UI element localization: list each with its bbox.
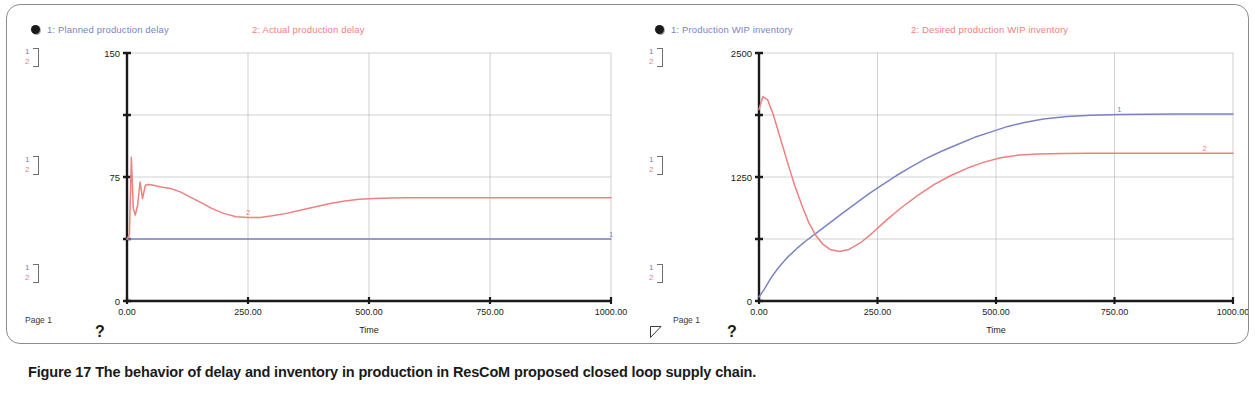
- series-inline-marker: 1: [1117, 105, 1121, 114]
- chart-canvas: 12: [127, 53, 611, 301]
- series-inline-marker: 2: [246, 208, 250, 217]
- page-label-left: Page 1: [25, 315, 52, 325]
- legend-entry-series1: 1: Planned production delay: [47, 24, 169, 35]
- scale-bracket-icon: [657, 264, 663, 283]
- x-axis-tick-label: 0.00: [118, 307, 136, 317]
- scale-pair-mid[interactable]: 1 2: [25, 155, 51, 181]
- scale-bracket-icon: [657, 156, 663, 175]
- figure-caption-lead: Figure 17: [28, 364, 91, 380]
- series-inline-marker: 2: [1202, 144, 1206, 153]
- x-axis-title: Time: [359, 325, 379, 335]
- page-label-right: Page 1: [673, 315, 700, 325]
- legend-bullet-icon: [655, 25, 664, 34]
- x-axis-tick-label: 750.00: [476, 307, 504, 317]
- scale-bracket-icon: [657, 48, 663, 67]
- scale-gutter-left: 1 2 1 2 1 2: [25, 47, 51, 297]
- scale-bracket-icon: [33, 48, 39, 67]
- vensim-window-frame: 1: Planned production delay 2: Actual pr…: [6, 4, 1249, 344]
- figure-container: 1: Planned production delay 2: Actual pr…: [0, 0, 1255, 411]
- y-axis-tick-label: 1250: [731, 172, 752, 183]
- x-axis-tick-label: 750.00: [1101, 307, 1129, 317]
- y-axis-tick-label: 0: [115, 296, 120, 307]
- page-flip-icon[interactable]: [649, 325, 663, 339]
- chart-production-delay: 12 0751500.00250.00500.00750.001000.00Ti…: [127, 53, 611, 301]
- legend-entry-series2: 2: Actual production delay: [252, 24, 365, 35]
- y-axis-tick-label: 75: [109, 172, 120, 183]
- x-axis-tick-label: 1000.00: [1217, 307, 1249, 317]
- scale-pair-top[interactable]: 1 2: [649, 47, 675, 73]
- x-axis-tick-label: 250.00: [234, 307, 262, 317]
- x-axis-tick-label: 250.00: [864, 307, 892, 317]
- y-axis-tick-label: 150: [104, 48, 120, 59]
- x-axis-tick-label: 1000.00: [595, 307, 628, 317]
- chart-inventory: 12 0125025000.00250.00500.00750.001000.0…: [759, 53, 1233, 301]
- scale-gutter-right: 1 2 1 2 1 2: [649, 47, 675, 297]
- x-axis-tick-label: 500.00: [355, 307, 383, 317]
- scale-pair-top[interactable]: 1 2: [25, 47, 51, 73]
- help-glyph-left[interactable]: ?: [95, 323, 105, 341]
- panel-inventory: 1: Production WIP inventory 2: Desired p…: [631, 5, 1249, 344]
- legend-bullet-icon: [31, 25, 40, 34]
- scale-pair-mid[interactable]: 1 2: [649, 155, 675, 181]
- scale-bracket-icon: [33, 156, 39, 175]
- figure-caption: Figure 17The behavior of delay and inven…: [28, 364, 1218, 380]
- panel-production-delay: 1: Planned production delay 2: Actual pr…: [7, 5, 631, 344]
- x-axis-title: Time: [986, 325, 1006, 335]
- scale-bracket-icon: [33, 264, 39, 283]
- figure-caption-text: The behavior of delay and inventory in p…: [95, 364, 756, 380]
- chart-canvas: 12: [759, 53, 1233, 301]
- scale-pair-bottom[interactable]: 1 2: [649, 263, 675, 289]
- legend-entry-series1: 1: Production WIP inventory: [671, 24, 793, 35]
- series-inline-marker: 1: [609, 230, 613, 239]
- x-axis-tick-label: 500.00: [982, 307, 1010, 317]
- y-axis-tick-label: 0: [747, 296, 752, 307]
- scale-pair-bottom[interactable]: 1 2: [25, 263, 51, 289]
- x-axis-tick-label: 0.00: [750, 307, 768, 317]
- legend-entry-series2: 2: Desired production WIP inventory: [911, 24, 1068, 35]
- help-glyph-right[interactable]: ?: [727, 323, 737, 341]
- legend-left: 1: Planned production delay 2: Actual pr…: [7, 23, 631, 39]
- legend-right: 1: Production WIP inventory 2: Desired p…: [631, 23, 1249, 39]
- y-axis-tick-label: 2500: [731, 48, 752, 59]
